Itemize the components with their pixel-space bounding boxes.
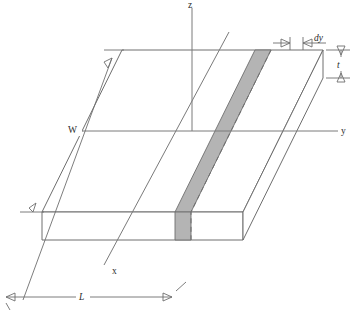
- dy-label: dy: [314, 33, 324, 43]
- w-label: W: [68, 125, 77, 135]
- l-guide-right: [176, 282, 186, 291]
- t-label: t: [337, 60, 340, 70]
- w-dimension-arrow-top: [104, 58, 112, 68]
- t-label-gap: [334, 57, 346, 71]
- slab-front-face: [42, 212, 243, 240]
- slab-diagram: W L t dy z y x: [0, 0, 358, 315]
- w-dimension-arrow-bottom: [29, 203, 36, 212]
- l-label: L: [78, 292, 84, 302]
- z-axis-label: z: [188, 0, 192, 10]
- strip-front-face: [175, 212, 191, 240]
- y-axis-label: y: [341, 126, 346, 136]
- x-axis-label: x: [112, 266, 117, 276]
- l-guide-left: [6, 303, 10, 310]
